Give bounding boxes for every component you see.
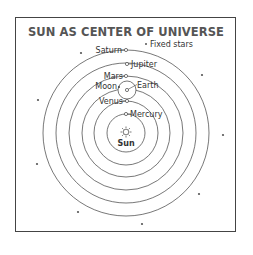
- planet-label-saturn: Saturn: [96, 46, 122, 55]
- star-icon: [201, 74, 203, 76]
- legend-fixed-stars: Fixed stars: [145, 40, 193, 49]
- planet-saturn: Saturn: [96, 46, 128, 55]
- planet-jupiter: Jupiter: [125, 60, 157, 69]
- planet-label-venus: Venus: [99, 97, 123, 106]
- sun-icon: [121, 127, 132, 138]
- star-icon: [141, 223, 143, 225]
- planet-label-mercury: Mercury: [130, 110, 163, 119]
- planet-marker-icon: [124, 48, 127, 51]
- diagram-title: SUN AS CENTER OF UNIVERSE: [28, 25, 224, 39]
- star-icon: [37, 99, 39, 101]
- planet-marker-icon: [125, 88, 128, 91]
- star-icon: [77, 211, 79, 213]
- star-icon: [36, 163, 38, 165]
- star-icon: [198, 193, 200, 195]
- planet-mars: Mars: [104, 72, 128, 81]
- moon-label: Moon: [95, 82, 117, 91]
- planet-marker-icon: [125, 62, 128, 65]
- star-icon: [145, 43, 147, 45]
- heliocentric-diagram: SUN AS CENTER OF UNIVERSE Fixed stars Su…: [0, 0, 253, 255]
- star-icon: [80, 52, 82, 54]
- planet-label-mars: Mars: [104, 72, 123, 81]
- planet-label-jupiter: Jupiter: [130, 60, 158, 69]
- sun-label: Sun: [117, 139, 134, 148]
- sun: Sun: [117, 127, 134, 149]
- moon-icon: [118, 86, 120, 88]
- legend-label: Fixed stars: [150, 40, 193, 49]
- planet-mercury: Mercury: [124, 110, 162, 119]
- star-icon: [222, 134, 224, 136]
- planet-marker-icon: [124, 112, 127, 115]
- planet-label-earth: Earth: [137, 81, 158, 90]
- planet-marker-icon: [124, 74, 127, 77]
- planet-marker-icon: [125, 99, 128, 102]
